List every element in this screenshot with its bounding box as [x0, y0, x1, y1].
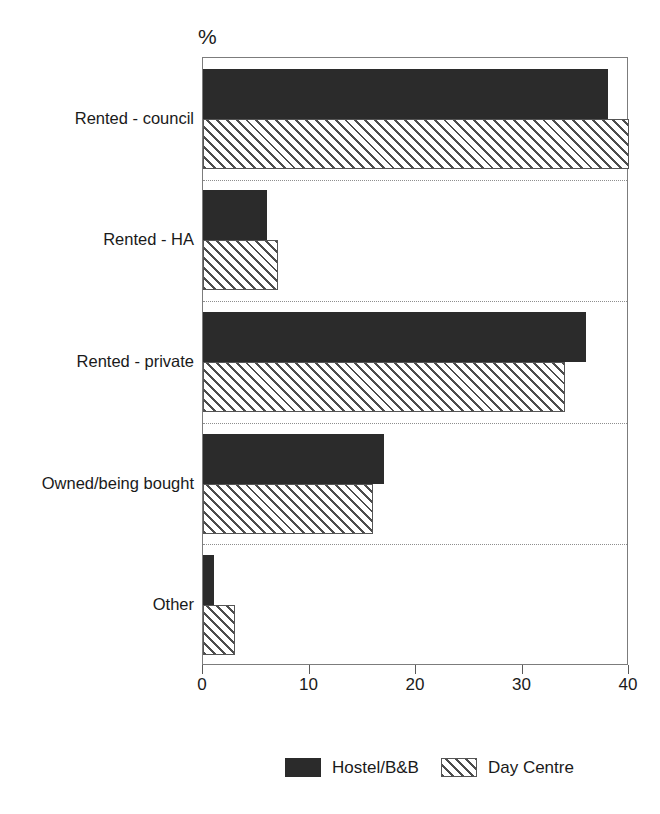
legend-swatch-hatched: [441, 758, 477, 777]
legend-swatch-solid: [285, 758, 321, 777]
bar-hostel-b-b-rented-private: [203, 312, 586, 362]
plot-inner: [203, 58, 627, 664]
bar-hostel-b-b-other: [203, 555, 214, 605]
x-tick-label-30: 30: [492, 676, 552, 693]
bar-day-centre-owned-being-bought: [203, 484, 373, 534]
category-separator: [203, 180, 627, 181]
bar-hostel-b-b-owned-being-bought: [203, 434, 384, 484]
x-tick-label-20: 20: [385, 676, 445, 693]
plot-area: [202, 57, 628, 665]
x-tick-label-40: 40: [598, 676, 658, 693]
x-tick-label-0: 0: [172, 676, 232, 693]
category-separator: [203, 423, 627, 424]
chart-legend: Hostel/B&BDay Centre: [285, 758, 574, 777]
category-label-rented-council: Rented - council: [0, 110, 194, 127]
legend-item-day-centre: Day Centre: [441, 758, 574, 777]
bar-hostel-b-b-rented-council: [203, 69, 608, 119]
x-tick-20: [415, 665, 416, 674]
bar-day-centre-other: [203, 605, 235, 655]
category-label-rented-ha: Rented - HA: [0, 231, 194, 248]
bar-day-centre-rented-council: [203, 119, 629, 169]
category-separator: [203, 301, 627, 302]
x-tick-30: [522, 665, 523, 674]
x-tick-10: [309, 665, 310, 674]
bar-day-centre-rented-private: [203, 362, 565, 412]
x-tick-40: [628, 665, 629, 674]
legend-item-hostel-b-b: Hostel/B&B: [285, 758, 441, 777]
category-label-rented-private: Rented - private: [0, 353, 194, 370]
bar-day-centre-rented-ha: [203, 240, 278, 290]
axis-unit-label: %: [198, 26, 217, 47]
legend-label: Hostel/B&B: [332, 759, 419, 776]
x-tick-label-10: 10: [279, 676, 339, 693]
bar-chart: % Rented - councilRented - HARented - pr…: [0, 0, 660, 814]
category-label-owned-being-bought: Owned/being bought: [0, 474, 194, 491]
x-tick-0: [202, 665, 203, 674]
category-separator: [203, 544, 627, 545]
legend-label: Day Centre: [488, 759, 574, 776]
category-label-other: Other: [0, 596, 194, 613]
bar-hostel-b-b-rented-ha: [203, 190, 267, 240]
